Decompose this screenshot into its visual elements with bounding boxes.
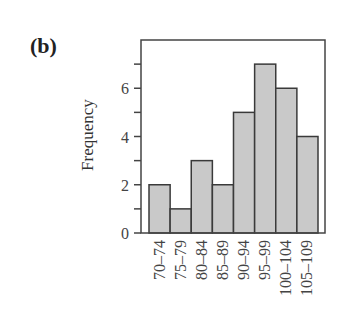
histogram-bar [170,209,191,233]
y-tick-label: 2 [121,177,129,194]
histogram-bar [276,88,297,233]
y-tick-label: 4 [121,129,129,146]
histogram-bar [191,161,212,233]
histogram-bar [149,185,170,233]
x-tick-label: 80–84 [193,240,210,280]
histogram-bar [234,112,255,233]
x-tick-label: 95–99 [256,240,273,280]
x-tick-label: 75–79 [172,240,189,280]
x-tick-label: 90–94 [235,240,252,280]
x-tick-label: 70–74 [151,240,168,280]
x-tick-label: 85–89 [214,240,231,280]
histogram-chart: 70–7475–7980–8485–8990–9495–99100–104105… [0,0,351,316]
y-tick-label: 6 [121,80,129,97]
histogram-bar [255,64,276,233]
histogram-bar [297,137,318,234]
x-tick-label: 100–104 [277,240,294,296]
x-tick-label: 105–109 [298,240,315,296]
histogram-bar [212,185,233,233]
y-tick-label: 0 [121,225,129,242]
